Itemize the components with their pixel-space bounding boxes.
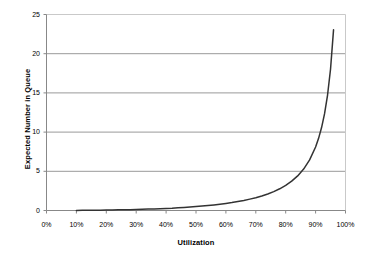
plot-area [0,0,377,255]
queueing-chart: Expected Number in Queue Utilization 051… [0,0,377,255]
data-series-line [76,30,333,211]
axis-tick-marks [44,15,346,214]
axis-lines [47,15,346,211]
gridlines [47,15,346,211]
